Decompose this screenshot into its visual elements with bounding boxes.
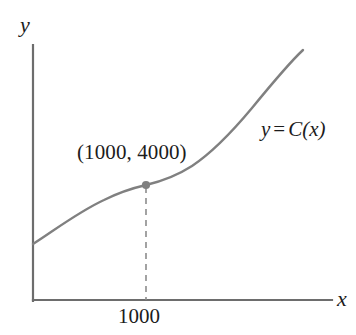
axis-label-y: y [20, 14, 30, 36]
curve-equation-rhs: C(x) [288, 117, 325, 141]
axis-label-x: x [337, 288, 347, 310]
curve-equation-equals: = [270, 117, 288, 141]
data-point-marker [142, 181, 150, 189]
cost-function-figure: y x (1000, 4000) y=C(x) 1000 [0, 0, 356, 335]
curve-equation-lhs: y [261, 117, 270, 141]
point-coordinate-label: (1000, 4000) [77, 142, 187, 163]
x-tick-label-1000: 1000 [118, 306, 160, 327]
graph-canvas [0, 0, 356, 335]
curve-equation-label: y=C(x) [261, 119, 326, 140]
